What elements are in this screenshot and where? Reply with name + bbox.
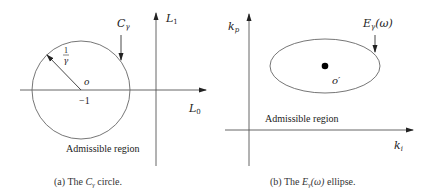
admissible-region-label-a: Admissible region: [66, 143, 140, 154]
l1-axis-label: L1: [165, 12, 178, 26]
center-o-prime-label: o′: [332, 75, 341, 86]
center-dot: [322, 63, 329, 70]
ki-axis-label: ki: [394, 139, 403, 153]
svg-text:1: 1: [64, 46, 68, 55]
admissible-region-label-b: Admissible region: [265, 113, 339, 124]
panel-b-ellipse-diagram: Eγ(ω) o′ kp ki Admissible region (b) The…: [225, 14, 413, 188]
l0-axis-label: L0: [188, 102, 201, 116]
radius-label: 1 γ: [63, 46, 69, 65]
caption-a: (a) The Cγ circle.: [54, 176, 122, 188]
svg-text:γ: γ: [64, 56, 69, 65]
c-gamma-label: Cγ: [117, 17, 130, 31]
center-value-label: −1: [79, 95, 90, 106]
center-o-label: o: [84, 77, 90, 87]
kp-axis-label: kp: [228, 20, 240, 34]
panel-a-circle-diagram: Cγ 1 γ o −1 L1 L0 Admissible region (a) …: [20, 12, 206, 188]
e-gamma-label: Eγ(ω): [362, 17, 393, 31]
figure: Cγ 1 γ o −1 L1 L0 Admissible region (a) …: [0, 0, 431, 195]
caption-b: (b) The Eγ(ω) ellipse.: [270, 176, 356, 188]
